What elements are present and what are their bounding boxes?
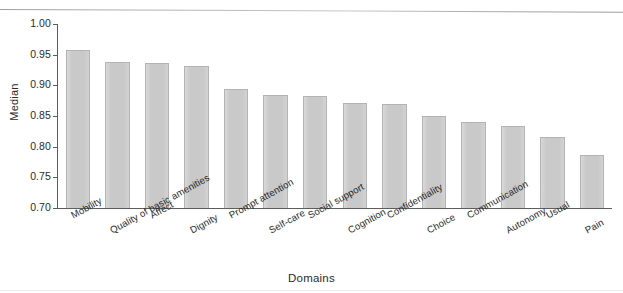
y-tick-mark: [53, 85, 57, 86]
bar: [224, 89, 248, 208]
y-axis-title: Median: [8, 62, 20, 142]
x-label-dignity: Dignity: [188, 211, 220, 235]
bar-chart-figure: Median 1.000.950.900.850.800.750.70 Mobi…: [0, 0, 623, 293]
y-tick-label: 0.80: [30, 140, 51, 152]
y-tick-mark: [53, 177, 57, 178]
x-axis-title: Domains: [0, 272, 623, 284]
y-tick-mark: [53, 24, 57, 25]
y-tick-label: 0.70: [30, 201, 51, 213]
x-axis-category-labels: MobilityQuality of basic amenitiesAffect…: [57, 209, 613, 271]
y-tick-label: 1.00: [30, 17, 51, 29]
bar: [303, 96, 327, 208]
bar: [66, 50, 90, 208]
x-label-cognition: Cognition: [346, 206, 388, 236]
x-label-pain: Pain: [583, 216, 605, 235]
bar: [105, 62, 129, 208]
y-tick-mark: [53, 116, 57, 117]
y-tick-mark: [53, 55, 57, 56]
x-label-autonomy: Autonomy: [504, 205, 548, 236]
y-tick-label: 0.90: [30, 78, 51, 90]
plot-area: 1.000.950.900.850.800.750.70: [57, 24, 612, 208]
y-tick-label: 0.95: [30, 48, 51, 60]
x-label-self-care: Self-care: [267, 207, 307, 236]
bar: [145, 63, 169, 208]
y-tick-label: 0.85: [30, 109, 51, 121]
bar: [540, 137, 564, 208]
y-tick-label: 0.75: [30, 170, 51, 182]
bar-series: [58, 24, 612, 208]
bar: [382, 104, 406, 208]
scan-artifact-line-bottom: [0, 290, 623, 291]
bar: [580, 155, 604, 208]
y-tick-mark: [53, 147, 57, 148]
scan-artifact-line-top: [0, 9, 623, 13]
bar: [461, 122, 485, 208]
x-label-choice: Choice: [425, 211, 457, 235]
